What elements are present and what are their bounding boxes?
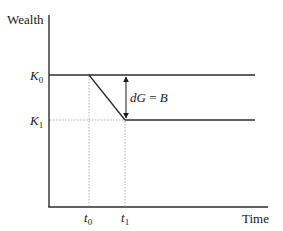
dg-equals-b-label: dG = B	[130, 90, 168, 105]
y-axis-label: Wealth	[7, 12, 44, 27]
wealth-decline-line	[89, 75, 125, 120]
k0-label: K0	[29, 68, 44, 85]
t0-label: t0	[84, 210, 93, 227]
wealth-time-diagram: Wealth Time K0 K1 t0 t1 dG = B	[0, 0, 283, 231]
diagram-svg: Wealth Time K0 K1 t0 t1 dG = B	[0, 0, 283, 231]
k1-label: K1	[29, 113, 43, 130]
x-axis-label: Time	[242, 211, 269, 226]
t1-label: t1	[121, 210, 129, 227]
